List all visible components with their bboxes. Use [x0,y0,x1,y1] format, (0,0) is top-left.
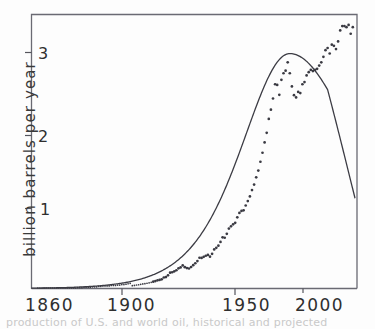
data-point [286,61,289,64]
data-point [192,264,195,267]
data-point [246,200,249,203]
data-point [190,266,193,269]
data-point [106,285,108,287]
data-point [96,286,98,288]
data-point [160,278,163,281]
data-point [328,52,331,55]
data-point [45,287,47,289]
data-point [276,84,279,87]
data-point [83,286,85,288]
data-point [104,285,106,287]
data-point [85,286,87,288]
data-point [351,26,354,29]
data-point [349,32,352,35]
data-point [136,284,138,286]
data-point [181,264,184,267]
data-point [324,49,327,52]
data-point [255,176,258,179]
data-point [41,287,43,289]
data-point [257,169,260,172]
data-point [303,81,306,84]
data-point [108,285,110,287]
data-point [267,118,270,121]
x-tick-label-2000: 2000 [295,295,344,315]
data-point [272,97,275,100]
data-point [236,216,239,219]
data-point [113,285,115,287]
data-point [288,72,291,75]
data-point [146,282,148,284]
data-point [73,287,75,289]
data-point [238,212,241,215]
data-point-group [37,24,354,289]
data-point [77,287,79,289]
data-point [282,72,285,75]
data-point [98,286,100,288]
data-point [50,287,52,289]
data-point [345,26,348,29]
data-point [62,287,64,289]
data-point [249,195,252,198]
data-point [47,287,49,289]
data-point [337,40,340,43]
data-point [71,287,73,289]
data-point [305,74,308,77]
data-point [223,236,226,239]
data-point [299,92,302,95]
data-point [316,68,319,71]
data-point [270,108,273,111]
data-point [244,204,247,207]
hubbert-fit-curve [32,54,355,289]
data-point [37,287,39,289]
data-point [175,269,178,272]
data-point [230,225,233,228]
x-tick-label-1900: 1900 [107,295,156,315]
data-point [142,283,144,285]
data-point [335,48,338,51]
data-point [43,287,45,289]
data-point [125,283,127,285]
data-point [251,189,254,192]
data-point [278,93,281,96]
data-point [295,96,298,99]
data-point [301,83,304,86]
data-point [54,287,56,289]
data-point [209,255,212,258]
y-tick-label-3: 3 [38,44,49,63]
data-point [333,44,336,47]
data-point [207,254,210,257]
data-point [134,285,136,287]
data-point [81,287,83,289]
data-point [119,284,121,286]
plot-canvas: 3 2 1 1860 1900 1950 2000 [0,0,375,329]
data-point [307,71,310,74]
data-point [94,286,96,288]
data-point [228,227,231,230]
data-point [234,221,237,224]
data-point [225,232,228,235]
data-point [87,286,89,288]
data-point [320,61,323,64]
data-point [100,286,102,288]
data-point [322,55,325,58]
data-point [291,85,294,88]
data-point [131,285,133,287]
data-point [318,64,321,67]
data-point [194,262,197,265]
data-point [110,285,112,287]
data-point [140,283,142,285]
data-point [339,29,342,32]
data-point [253,183,256,186]
data-point [127,283,129,285]
data-point [284,69,287,72]
data-point [326,47,329,50]
data-point [89,286,91,288]
data-point [102,285,104,287]
data-point [211,252,214,255]
x-tick-label-1860: 1860 [25,295,74,315]
x-tick-label-1950: 1950 [222,295,271,315]
data-point [58,287,60,289]
data-point [117,284,119,286]
data-point [219,241,222,244]
data-point [215,247,218,250]
